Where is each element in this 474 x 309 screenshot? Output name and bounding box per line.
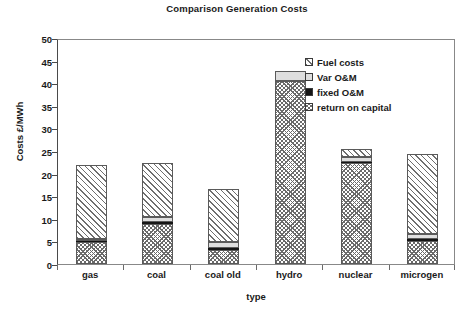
y-axis-tick-mark	[52, 175, 57, 176]
x-axis-tick-label: nuclear	[322, 269, 388, 280]
chart-legend: Fuel costsVar O&Mfixed O&Mreturn on capi…	[305, 55, 451, 115]
bar-segment[interactable]	[341, 163, 372, 264]
y-axis-tick-label: 25	[22, 147, 52, 158]
y-axis-tick-mark	[52, 242, 57, 243]
y-axis-tick-mark	[52, 197, 57, 198]
bar-segment[interactable]	[275, 81, 306, 264]
bar-group[interactable]	[142, 38, 173, 264]
bar-segment[interactable]	[142, 163, 173, 217]
y-axis-tick-labels: 05101520253035404550	[20, 0, 52, 309]
x-axis-tick-mark	[322, 265, 323, 270]
legend-item-label: return on capital	[317, 102, 391, 113]
x-axis-tick-mark	[190, 265, 191, 270]
x-axis-tick-label: microgen	[389, 269, 455, 280]
y-axis-tick-label: 5	[22, 237, 52, 248]
x-axis-tick-mark	[454, 265, 455, 270]
x-axis-tick-mark	[256, 265, 257, 270]
bar-segment[interactable]	[142, 224, 173, 264]
bar-group[interactable]	[208, 38, 239, 264]
bar-group[interactable]	[76, 38, 107, 264]
x-axis-tick-label: coal old	[190, 269, 256, 280]
legend-swatch-icon	[305, 73, 313, 81]
x-axis-tick-label: hydro	[256, 269, 322, 280]
bar-segment[interactable]	[76, 165, 107, 238]
y-axis-tick-label: 15	[22, 192, 52, 203]
legend-item[interactable]: Fuel costs	[305, 55, 451, 69]
y-axis-tick-label: 30	[22, 124, 52, 135]
legend-item[interactable]: fixed O&M	[305, 85, 451, 99]
y-axis-tick-mark	[52, 220, 57, 221]
y-axis-tick-label: 50	[22, 34, 52, 45]
bar-segment[interactable]	[341, 157, 372, 162]
bar-segment[interactable]	[407, 154, 438, 234]
y-axis-tick-mark	[52, 107, 57, 108]
x-axis-title: type	[57, 291, 455, 302]
bar-group[interactable]	[275, 38, 306, 264]
y-axis-tick-label: 0	[22, 260, 52, 271]
y-axis-tick-mark	[52, 152, 57, 153]
legend-item[interactable]: Var O&M	[305, 70, 451, 84]
bar-segment[interactable]	[208, 250, 239, 264]
y-axis-tick-mark	[52, 62, 57, 63]
chart-title: Comparison Generation Costs	[0, 3, 474, 14]
legend-swatch-icon	[305, 88, 313, 96]
x-axis-tick-mark	[123, 265, 124, 270]
legend-swatch-icon	[305, 103, 313, 111]
bar-segment[interactable]	[142, 217, 173, 222]
y-axis-tick-mark	[52, 84, 57, 85]
bar-segment[interactable]	[76, 239, 107, 241]
y-axis-tick-label: 45	[22, 56, 52, 67]
bar-segment[interactable]	[407, 234, 438, 239]
bar-segment[interactable]	[208, 242, 239, 248]
bar-segment[interactable]	[275, 71, 306, 80]
legend-swatch-icon	[305, 58, 313, 66]
legend-item-label: fixed O&M	[317, 87, 364, 98]
x-axis-tick-mark	[57, 265, 58, 270]
bar-segment[interactable]	[208, 189, 239, 242]
y-axis-tick-label: 10	[22, 214, 52, 225]
y-axis-tick-mark	[52, 129, 57, 130]
legend-item[interactable]: return on capital	[305, 100, 451, 114]
y-axis-tick-label: 35	[22, 101, 52, 112]
x-axis-tick-label: coal	[123, 269, 189, 280]
y-axis-tick-label: 20	[22, 169, 52, 180]
y-axis-tick-mark	[52, 39, 57, 40]
bar-segment[interactable]	[76, 242, 107, 264]
x-axis-tick-label: gas	[57, 269, 123, 280]
chart-container: Comparison Generation Costs Costs £/MWh …	[0, 0, 474, 309]
bar-segment[interactable]	[407, 241, 438, 265]
y-axis-tick-label: 40	[22, 79, 52, 90]
legend-item-label: Var O&M	[317, 72, 357, 83]
legend-item-label: Fuel costs	[317, 57, 364, 68]
bar-segment[interactable]	[341, 149, 372, 157]
x-axis-tick-mark	[389, 265, 390, 270]
